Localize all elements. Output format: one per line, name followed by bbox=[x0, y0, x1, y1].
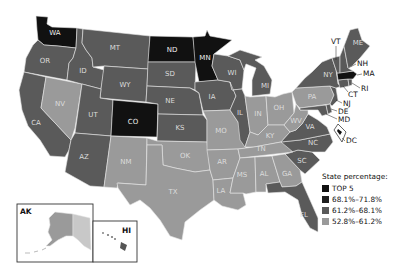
label-CT: CT bbox=[348, 90, 358, 99]
label-UT: UT bbox=[88, 111, 98, 119]
legend-swatch-mid bbox=[322, 207, 329, 214]
label-RI: RI bbox=[361, 84, 368, 93]
label-NM: NM bbox=[120, 158, 131, 166]
label-ND: ND bbox=[167, 46, 178, 54]
leader-RI bbox=[352, 83, 360, 88]
legend-swatch-top5 bbox=[322, 185, 329, 192]
leader-MD bbox=[326, 114, 337, 119]
legend-item-high: 68.1%–71.8% bbox=[322, 194, 388, 205]
legend-title: State percentage: bbox=[322, 172, 388, 181]
label-AR: AR bbox=[217, 158, 227, 166]
label-MD: MD bbox=[338, 115, 350, 124]
label-OH: OH bbox=[274, 104, 285, 112]
label-ID: ID bbox=[79, 67, 86, 75]
label-IL: IL bbox=[237, 109, 243, 117]
label-WV: WV bbox=[290, 117, 302, 125]
label-IA: IA bbox=[209, 93, 216, 101]
label-IN: IN bbox=[254, 110, 261, 118]
label-OR: OR bbox=[40, 57, 51, 65]
legend-label-mid: 61.2%–68.1% bbox=[332, 206, 382, 215]
label-DC: DC bbox=[346, 136, 357, 145]
legend-swatch-low bbox=[322, 218, 329, 225]
label-VT: VT bbox=[331, 37, 341, 46]
label-ME: ME bbox=[353, 39, 363, 47]
label-MA: MA bbox=[363, 69, 374, 78]
label-HI: HI bbox=[122, 226, 131, 235]
label-KS: KS bbox=[175, 124, 185, 132]
map-legend: State percentage: TOP 5 68.1%–71.8% 61.2… bbox=[322, 172, 388, 227]
label-PA: PA bbox=[308, 93, 317, 101]
label-LA: LA bbox=[217, 187, 226, 195]
label-CA: CA bbox=[31, 119, 41, 127]
label-NY: NY bbox=[323, 71, 333, 79]
state-FL[interactable] bbox=[266, 182, 318, 232]
label-AK: AK bbox=[20, 207, 33, 216]
label-NV: NV bbox=[55, 100, 65, 108]
label-AZ: AZ bbox=[79, 153, 89, 161]
label-WY: WY bbox=[119, 81, 131, 89]
legend-label-high: 68.1%–71.8% bbox=[332, 195, 382, 204]
label-SD: SD bbox=[165, 70, 175, 78]
legend-swatch-high bbox=[322, 196, 329, 203]
label-NC: NC bbox=[308, 139, 318, 147]
label-SC: SC bbox=[297, 157, 306, 165]
legend-item-low: 52.8%–61.2% bbox=[322, 216, 388, 227]
label-MS: MS bbox=[237, 171, 248, 179]
legend-label-top5: TOP 5 bbox=[332, 184, 354, 193]
legend-item-mid: 61.2%–68.1% bbox=[322, 205, 388, 216]
us-choropleth-map: WA OR CA NV ID MT WY UT AZ CO NM ND SD N… bbox=[0, 0, 398, 275]
label-TN: TN bbox=[255, 145, 266, 153]
label-TX: TX bbox=[167, 188, 177, 196]
leader-MA bbox=[357, 74, 362, 75]
legend-item-top5: TOP 5 bbox=[322, 183, 388, 194]
label-KY: KY bbox=[266, 132, 275, 140]
label-WA: WA bbox=[49, 29, 61, 37]
label-AL: AL bbox=[260, 170, 269, 178]
label-WI: WI bbox=[228, 69, 237, 77]
label-NE: NE bbox=[165, 97, 175, 105]
label-MN: MN bbox=[199, 54, 210, 62]
label-MT: MT bbox=[110, 44, 121, 52]
state-RI[interactable] bbox=[348, 79, 352, 86]
label-CO: CO bbox=[128, 118, 139, 126]
label-MO: MO bbox=[215, 127, 227, 135]
label-GA: GA bbox=[282, 170, 292, 178]
label-VA: VA bbox=[305, 123, 314, 131]
legend-label-low: 52.8%–61.2% bbox=[332, 217, 382, 226]
label-NH: NH bbox=[357, 59, 368, 68]
label-OK: OK bbox=[180, 152, 191, 160]
label-FL: FL bbox=[300, 211, 308, 219]
label-MI: MI bbox=[261, 82, 269, 90]
